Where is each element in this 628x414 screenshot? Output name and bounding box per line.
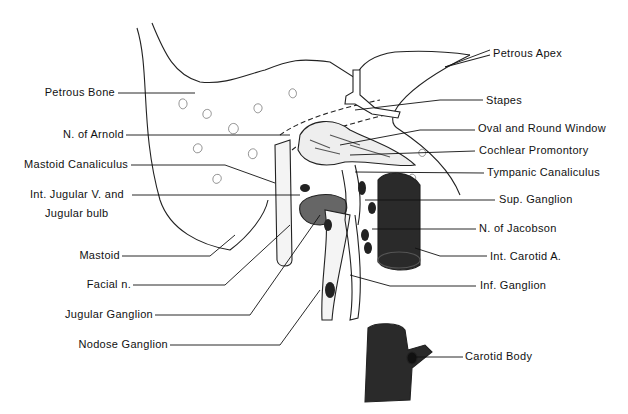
label-jugular-bulb: Jugular bulb (45, 207, 109, 219)
label-petrous-bone: Petrous Bone (20, 86, 115, 98)
label-n-of-jacobson: N. of Jacobson (479, 222, 557, 234)
label-facial-n: Facial n. (20, 278, 131, 290)
label-mastoid-canaliculus: Mastoid Canaliculus (24, 158, 128, 170)
label-int-jugular-v: Int. Jugular V. and (30, 188, 124, 200)
label-n-of-arnold: N. of Arnold (20, 128, 124, 140)
label-nodose-ganglion: Nodose Ganglion (20, 338, 168, 350)
sup-ganglion-shape (358, 181, 366, 195)
stapes-shape (345, 70, 400, 118)
label-sup-ganglion: Sup. Ganglion (499, 193, 573, 205)
label-cochlear-promontory: Cochlear Promontory (479, 144, 589, 156)
label-stapes: Stapes (486, 94, 522, 106)
jugular-ganglion-shape (324, 219, 332, 231)
mastoid-outline (137, 28, 268, 250)
label-petrous-apex: Petrous Apex (493, 47, 562, 59)
label-jugular-ganglion: Jugular Ganglion (20, 308, 153, 320)
inf-ganglion-shape (364, 242, 372, 254)
label-inf-ganglion: Inf. Ganglion (480, 279, 546, 291)
label-carotid-body: Carotid Body (465, 350, 532, 362)
label-mastoid: Mastoid (20, 249, 120, 261)
label-int-carotid-a: Int. Carotid A. (490, 250, 561, 262)
nodose-ganglion-shape (325, 282, 335, 298)
carotid-body-shape (407, 352, 417, 364)
carotid-bifurcation-shape (365, 324, 432, 402)
label-oval-round-window: Oval and Round Window (478, 122, 606, 134)
petrous-bone-outline (152, 23, 470, 83)
facial-nerve-shape (275, 140, 292, 266)
label-tympanic-canaliculus: Tympanic Canaliculus (487, 166, 600, 178)
